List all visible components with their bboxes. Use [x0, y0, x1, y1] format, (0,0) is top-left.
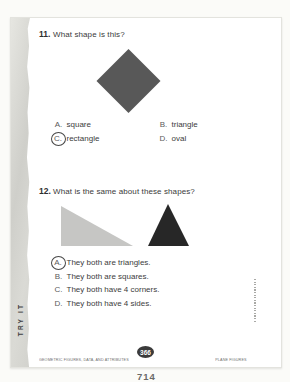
page-number: 366	[140, 349, 151, 356]
question-12-header: 12. What is the same about these shapes?	[39, 186, 195, 196]
try-it-spine-label: TRY IT	[11, 283, 31, 355]
option-label: They both have 4 corners.	[67, 285, 160, 294]
option-letter: B.	[159, 120, 168, 129]
option-letter: A.	[51, 256, 66, 270]
option-label: They both have 4 sides.	[67, 299, 152, 308]
q12-option-a[interactable]: A. They both are triangles.	[54, 258, 151, 268]
question-12-number: 12.	[39, 186, 53, 196]
q11-figure	[91, 44, 166, 118]
worksheet-page: TRY IT 11. What shape is this? A. square…	[10, 17, 282, 368]
question-11-text: What shape is this?	[53, 30, 125, 39]
q11-option-a[interactable]: A. square	[54, 120, 91, 129]
try-it-label-text: TRY IT	[18, 302, 25, 335]
diamond-shape	[97, 49, 161, 113]
dark-triangle-shape	[148, 204, 189, 246]
option-letter: C.	[51, 132, 66, 146]
option-label: triangle	[172, 120, 198, 129]
option-letter: A.	[54, 120, 63, 129]
option-letter: D.	[54, 299, 63, 308]
q12-option-c[interactable]: C. They both have 4 corners.	[54, 285, 159, 294]
option-label: They both are triangles.	[67, 258, 151, 267]
option-letter: B.	[54, 272, 63, 281]
page-number-badge: 366	[137, 346, 154, 358]
q11-option-d[interactable]: D. oval	[159, 134, 186, 143]
compilation-page-number-cutoff: 714	[137, 371, 156, 382]
q11-option-c[interactable]: C. rectangle	[54, 134, 99, 144]
option-label: rectangle	[67, 134, 100, 143]
footer-chapter-title: PLANE FIGURES	[196, 349, 247, 367]
option-letter: D.	[159, 134, 168, 143]
question-11-header: 11. What shape is this?	[39, 29, 125, 39]
q12-option-d[interactable]: D. They both have 4 sides.	[54, 299, 151, 308]
option-letter: C.	[54, 285, 63, 294]
question-11-number: 11.	[39, 29, 53, 39]
copyright-microtext-vertical	[254, 279, 256, 323]
light-triangle-shape	[61, 206, 133, 246]
q11-option-b[interactable]: B. triangle	[159, 120, 198, 129]
q12-option-b[interactable]: B. They both are squares.	[54, 272, 149, 281]
footer-section-title: GEOMETRIC FIGURES, DATA, AND ATTRIBUTES	[39, 349, 184, 367]
option-label: oval	[172, 134, 187, 143]
option-label: They both are squares.	[67, 272, 149, 281]
question-12-text: What is the same about these shapes?	[53, 187, 195, 196]
option-label: square	[67, 120, 91, 129]
q12-figure	[56, 200, 196, 250]
